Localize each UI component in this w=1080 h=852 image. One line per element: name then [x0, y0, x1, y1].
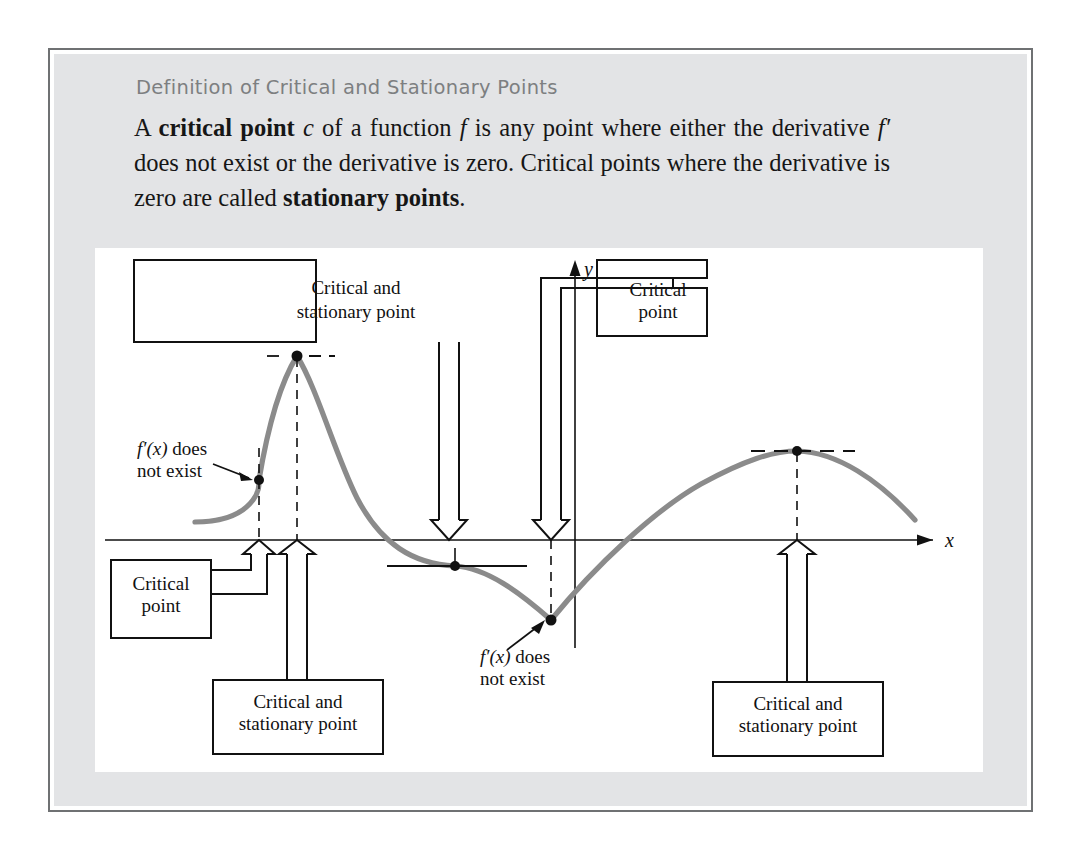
callout-left-arrowhead: [243, 540, 275, 554]
point-local-max-2: [792, 446, 802, 456]
callout-bottomleft-line2: stationary point: [239, 713, 358, 734]
callout-top-line2: stationary point: [297, 301, 416, 322]
callout-left-line2: point: [141, 595, 181, 616]
point-corner-critical: [254, 475, 264, 485]
def-var-c: c: [303, 114, 314, 141]
marked-points-group: [254, 351, 802, 626]
figure-panel: x y: [95, 248, 983, 772]
y-axis-arrowhead: [570, 260, 581, 276]
definition-title: Definition of Critical and Stationary Po…: [136, 76, 558, 99]
curve-right-segment: [551, 451, 915, 620]
callout-left-line1: Critical: [133, 573, 190, 594]
callout-topright-line2: point: [638, 301, 678, 322]
def-part-2: [295, 114, 303, 141]
def-part-6: .: [459, 184, 465, 211]
point-inflection-stationary: [450, 561, 460, 571]
point-local-max-1: [292, 351, 303, 362]
lower-middle-note-line1: f′(x) does: [480, 646, 550, 668]
callout-bottomright-arrowhead: [779, 540, 815, 554]
point-cusp-critical: [546, 615, 557, 626]
callout-bottom-right-critical-and-stationary[interactable]: Critical and stationary point: [713, 540, 883, 756]
callout-bottomright-line1: Critical and: [753, 693, 843, 714]
lower-middle-note-rest: does: [511, 646, 551, 667]
x-axis-arrowhead: [917, 535, 933, 546]
lower-middle-note-expr: f′(x): [480, 646, 511, 668]
callout-top-box: [134, 260, 316, 342]
callout-top-stems: [439, 342, 459, 520]
callout-top-line1: Critical and: [311, 277, 401, 298]
drop-lines-group: [259, 358, 797, 620]
critical-points-diagram: x y: [95, 248, 983, 772]
lower-middle-leader-arrowhead: [531, 620, 545, 634]
x-axis-label: x: [944, 529, 954, 551]
callout-bottomleft-stems: [287, 554, 307, 680]
annotation-lower-middle: f′(x) does not exist: [480, 620, 550, 689]
callout-top-arrowhead: [431, 520, 467, 540]
callout-topright-arrowhead: [533, 520, 569, 540]
def-part-5: does not exist or the derivative is zero…: [134, 149, 890, 211]
callout-left-connector: [211, 554, 267, 594]
callout-left-critical-point[interactable]: Critical point: [111, 540, 275, 638]
upper-left-note-rest: does: [168, 438, 208, 459]
def-term-stationary-points: stationary points: [283, 184, 459, 211]
upper-left-leader-arrowhead: [239, 472, 253, 481]
def-part-1: A: [134, 114, 159, 141]
upper-left-note-expr: f′(x): [137, 438, 168, 460]
def-var-f-prime: f′: [878, 114, 890, 141]
upper-left-note-line2: not exist: [137, 460, 203, 481]
callout-top-critical-and-stationary[interactable]: Critical and stationary point: [134, 260, 467, 540]
def-part-3: of a function: [314, 114, 460, 141]
callout-bottom-left-critical-and-stationary[interactable]: Critical and stationary point: [213, 540, 383, 754]
callout-bottomright-stems: [787, 554, 807, 682]
annotation-upper-left: f′(x) does not exist: [137, 438, 253, 481]
definition-body: A critical point c of a function f is an…: [134, 110, 890, 215]
callout-bottomright-line2: stationary point: [739, 715, 858, 736]
callout-bottomleft-line1: Critical and: [253, 691, 343, 712]
def-term-critical-point: critical point: [159, 114, 295, 141]
curve-left-segment: [195, 356, 551, 620]
lower-middle-note-line2: not exist: [480, 668, 546, 689]
def-part-4: is any point where either the derivative: [466, 114, 877, 141]
callout-bottomleft-arrowhead: [279, 540, 315, 554]
upper-left-note-line1: f′(x) does: [137, 438, 207, 460]
callout-topright-line1: Critical: [630, 279, 687, 300]
page-root: Definition of Critical and Stationary Po…: [0, 0, 1080, 852]
